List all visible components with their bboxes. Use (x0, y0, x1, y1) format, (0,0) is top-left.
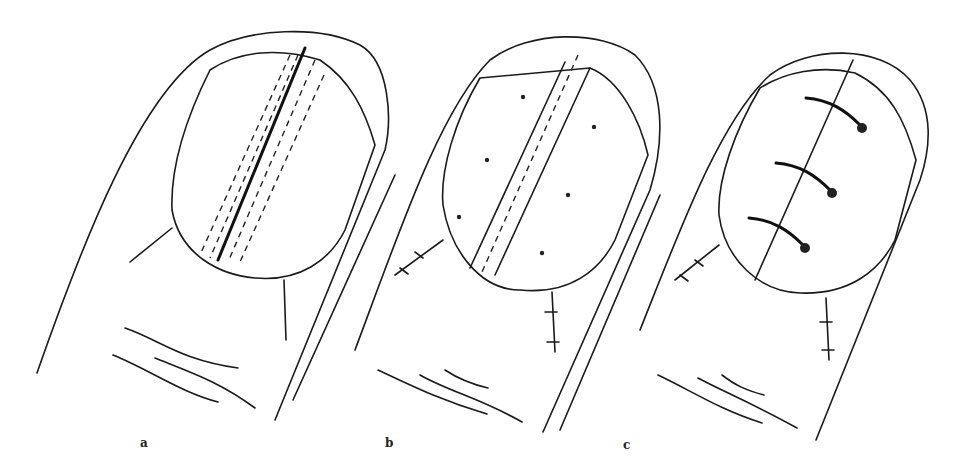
nail-plate-c (719, 70, 916, 293)
panel-c-drawing (640, 53, 928, 440)
figure-canvas (0, 0, 958, 467)
finger-outline-c (640, 53, 928, 440)
nail-plate-b (443, 68, 648, 291)
split-line-a (218, 48, 305, 260)
panel-label-a: a (140, 436, 148, 450)
finger-edge-a (293, 175, 395, 400)
panel-a-drawing (37, 32, 395, 420)
panel-label-c: c (623, 438, 630, 452)
panel-label-b: b (385, 436, 393, 450)
nail-plate-a (172, 53, 375, 279)
panel-b-drawing (355, 37, 660, 432)
finger-outline-b (355, 37, 660, 432)
